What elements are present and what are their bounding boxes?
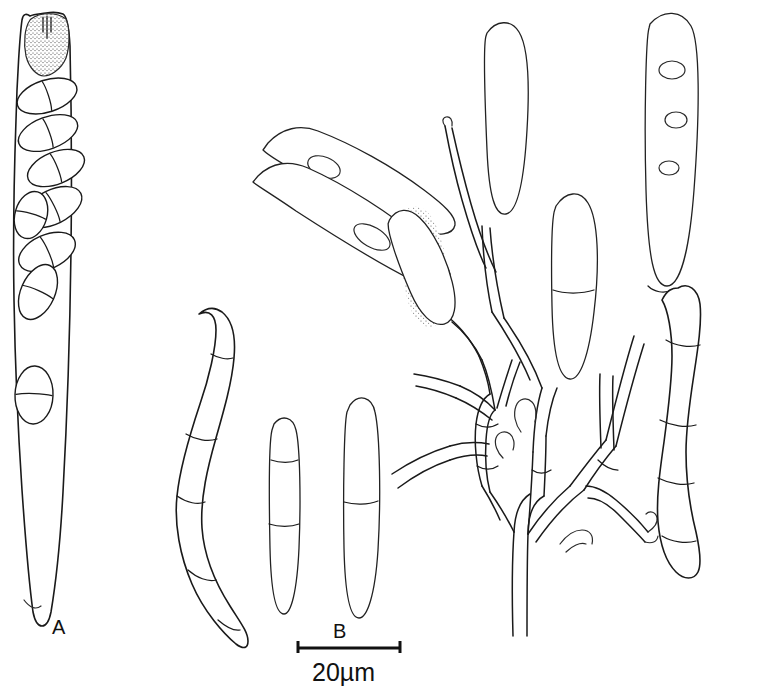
curved-conidium-right-wall bbox=[657, 286, 700, 578]
branched-conidiophore bbox=[245, 6, 702, 636]
small-conidium-right bbox=[338, 388, 388, 624]
ascus-group: A bbox=[9, 8, 90, 638]
septum bbox=[477, 466, 498, 469]
branchlet bbox=[445, 126, 486, 268]
septum bbox=[532, 470, 551, 473]
small-conidium-left-wall bbox=[269, 418, 300, 614]
panel-b-label: B bbox=[333, 620, 346, 642]
figure-plate: A B bbox=[0, 0, 759, 696]
conidiogenous-cell bbox=[486, 410, 495, 492]
panel-a-label: A bbox=[52, 616, 66, 638]
conidium-4-wall bbox=[484, 23, 528, 214]
lateral-branch bbox=[586, 486, 648, 532]
denticle bbox=[495, 432, 514, 458]
conidium-attached-4 bbox=[478, 14, 536, 224]
conidium-attached-6 bbox=[640, 6, 702, 292]
conidium-6-wall bbox=[645, 13, 698, 286]
conidiophore-stalk bbox=[527, 534, 528, 636]
curved-conidium-left-wall bbox=[176, 308, 248, 647]
denticle bbox=[515, 399, 536, 432]
small-conidium-right-wall bbox=[344, 398, 380, 618]
scale-bar-label: 20µm bbox=[312, 658, 375, 686]
conidium-attached-5 bbox=[545, 186, 607, 386]
denticle bbox=[560, 530, 593, 544]
illustration-canvas: A B bbox=[0, 0, 759, 696]
curved-conidium-right bbox=[657, 286, 700, 578]
conidium-5-wall bbox=[552, 194, 598, 379]
scale-bar-group: 20µm bbox=[297, 641, 401, 686]
small-conidium-left bbox=[262, 405, 310, 625]
curved-conidium-left bbox=[176, 308, 248, 647]
septum bbox=[476, 424, 498, 427]
conidiophore-stalk bbox=[512, 532, 514, 636]
